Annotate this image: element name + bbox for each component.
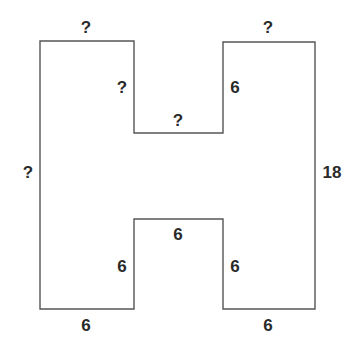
- label-top-left-width: ?: [81, 18, 91, 37]
- h-shape-diagram: ? ? ? 6 ? ? 18 6 6 6 6 6: [0, 0, 347, 341]
- label-bottom-notch-left-side: 6: [117, 257, 126, 276]
- h-shape-outline: [40, 41, 315, 309]
- label-bottom-notch-top: 6: [173, 225, 182, 244]
- label-top-right-width: ?: [263, 18, 273, 37]
- label-bottom-notch-right-side: 6: [230, 257, 239, 276]
- label-bottom-left-width: 6: [81, 316, 90, 335]
- label-top-notch-bottom: ?: [173, 111, 183, 130]
- label-right-height: 18: [323, 163, 342, 182]
- label-left-height: ?: [23, 163, 33, 182]
- label-top-notch-left-side: ?: [117, 78, 127, 97]
- label-bottom-right-width: 6: [263, 316, 272, 335]
- label-top-notch-right-side: 6: [230, 78, 239, 97]
